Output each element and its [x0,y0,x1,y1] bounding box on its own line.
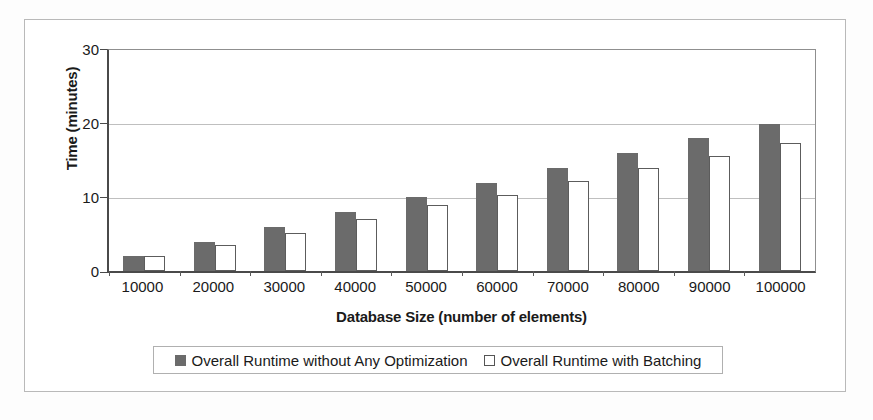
plot-area [107,49,816,273]
x-tick-mark [462,271,463,276]
bar-with-batching [638,168,659,271]
bar-group [321,50,392,271]
bar-group [533,50,604,271]
x-tick-label: 60000 [462,278,533,295]
chart-legend: Overall Runtime without Any Optimization… [153,346,723,374]
bar-with-batching [144,256,165,271]
legend-entry-without-optimization: Overall Runtime without Any Optimization [175,352,468,369]
y-tick-label-30: 30 [65,42,99,57]
bar-without-optimization [194,242,215,271]
bar-without-optimization [264,227,285,271]
x-tick-mark [391,271,392,276]
x-tick-mark [674,271,675,276]
y-tick-mark-20 [100,123,107,124]
bar-with-batching [285,233,306,271]
bar-without-optimization [617,153,638,271]
bar-group [250,50,321,271]
y-tick-label-10: 10 [65,190,99,205]
x-tick-mark [109,271,110,276]
x-axis-tick-labels: 1000020000300004000050000600007000080000… [107,278,816,295]
bar-group [391,50,462,271]
x-tick-mark [250,271,251,276]
y-tick-label-20: 20 [65,116,99,131]
y-tick-mark-10 [100,197,107,198]
y-tick-label-0: 0 [65,264,99,279]
y-tick-mark-0 [100,272,107,273]
y-axis-tick-labels: 30 20 10 0 [65,20,99,393]
bar-without-optimization [335,212,356,271]
bar-without-optimization [688,138,709,271]
x-tick-label: 30000 [249,278,320,295]
x-tick-mark [603,271,604,276]
bar-without-optimization [123,256,144,271]
legend-entry-with-batching: Overall Runtime with Batching [484,352,702,369]
bar-with-batching [215,245,236,271]
x-tick-label: 10000 [107,278,178,295]
bar-group [180,50,251,271]
legend-swatch-outline-square-icon [484,355,495,366]
x-tick-label: 100000 [745,278,816,295]
x-tick-mark [533,271,534,276]
legend-label-with-batching: Overall Runtime with Batching [501,352,702,369]
bar-without-optimization [406,197,427,271]
chart-frame: Time (minutes) 30 20 10 0 10000200003000… [24,19,846,392]
bar-with-batching [709,156,730,271]
bar-with-batching [356,219,377,271]
bar-series-container [109,50,815,271]
x-tick-label: 80000 [603,278,674,295]
x-tick-label: 70000 [532,278,603,295]
x-tick-label: 20000 [178,278,249,295]
legend-label-without-optimization: Overall Runtime without Any Optimization [192,352,468,369]
x-tick-mark [321,271,322,276]
bar-with-batching [497,195,518,271]
bar-with-batching [780,143,801,271]
bar-without-optimization [476,183,497,271]
x-tick-label: 50000 [391,278,462,295]
x-axis-title: Database Size (number of elements) [107,308,816,325]
x-tick-label: 40000 [320,278,391,295]
x-tick-label: 90000 [674,278,745,295]
bar-group [674,50,745,271]
bar-without-optimization [547,168,568,271]
bar-group [744,50,815,271]
x-tick-mark [744,271,745,276]
bar-group [462,50,533,271]
bar-group [109,50,180,271]
x-tick-mark [180,271,181,276]
chart-figure: Time (minutes) 30 20 10 0 10000200003000… [0,0,873,420]
bar-group [603,50,674,271]
bar-with-batching [568,181,589,271]
bar-without-optimization [759,124,780,271]
y-tick-mark-30 [100,49,107,50]
legend-swatch-filled-square-icon [175,355,186,366]
bar-with-batching [427,205,448,271]
